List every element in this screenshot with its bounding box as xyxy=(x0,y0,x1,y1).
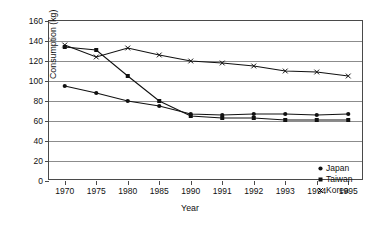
y-axis-tick-label: 20 xyxy=(7,157,43,166)
plot-area: 020406080100120140160 197019751980198519… xyxy=(48,20,363,180)
x-axis-title: Year xyxy=(0,203,380,213)
circle-marker-icon xyxy=(252,112,256,116)
consumption-line-chart: 020406080100120140160 197019751980198519… xyxy=(0,0,380,225)
circle-marker-icon xyxy=(315,164,326,173)
square-marker-icon xyxy=(283,118,287,122)
y-axis-tick-label: 60 xyxy=(7,117,43,126)
circle-marker-icon xyxy=(315,113,319,117)
series-line xyxy=(65,86,349,115)
series-line xyxy=(65,47,349,120)
square-marker-icon xyxy=(126,74,130,78)
x-axis-tick xyxy=(254,181,255,185)
legend-item-japan[interactable]: Japan xyxy=(315,163,377,174)
square-marker-icon xyxy=(252,116,256,120)
series-korea xyxy=(62,43,350,79)
circle-marker-icon xyxy=(63,84,67,88)
x-axis-tick xyxy=(96,181,97,185)
square-marker-icon xyxy=(315,118,319,122)
series-layer xyxy=(49,21,364,181)
y-axis-tick-label: 80 xyxy=(7,97,43,106)
circle-marker-icon xyxy=(318,166,322,170)
square-marker-icon xyxy=(346,118,350,122)
square-marker-icon xyxy=(94,48,98,52)
legend-item-korea[interactable]: Korea xyxy=(315,185,377,196)
square-marker-icon xyxy=(220,116,224,120)
square-marker-icon xyxy=(189,114,193,118)
legend-label: Taiwan xyxy=(326,175,352,184)
x-axis-tick xyxy=(191,181,192,185)
cross-marker-icon xyxy=(318,188,323,193)
cross-marker-icon xyxy=(315,186,326,195)
x-axis-tick xyxy=(159,181,160,185)
y-axis-tick-label: 100 xyxy=(7,77,43,86)
circle-marker-icon xyxy=(283,112,287,116)
legend-label: Japan xyxy=(326,164,349,173)
x-axis-tick xyxy=(65,181,66,185)
legend-item-taiwan[interactable]: Taiwan xyxy=(315,174,377,185)
legend-label: Korea xyxy=(326,186,349,195)
x-axis-tick xyxy=(128,181,129,185)
circle-marker-icon xyxy=(157,104,161,108)
square-marker-icon xyxy=(319,178,323,182)
square-marker-icon xyxy=(315,175,326,184)
circle-marker-icon xyxy=(346,112,350,116)
series-taiwan xyxy=(63,45,351,122)
y-axis-tick-label: 0 xyxy=(7,177,43,186)
y-axis-tick-label: 40 xyxy=(7,137,43,146)
y-axis-tick-label: 140 xyxy=(7,37,43,46)
x-axis-tick xyxy=(285,181,286,185)
y-axis-tick xyxy=(45,181,49,182)
series-line xyxy=(65,45,349,76)
square-marker-icon xyxy=(157,99,161,103)
chart-legend: JapanTaiwanKorea xyxy=(312,161,380,198)
x-axis-tick xyxy=(222,181,223,185)
y-axis-tick-label: 120 xyxy=(7,57,43,66)
circle-marker-icon xyxy=(126,99,130,103)
y-axis-title: Consumption (kg) xyxy=(48,10,58,79)
series-japan xyxy=(63,84,351,117)
y-axis-tick-label: 160 xyxy=(7,17,43,26)
circle-marker-icon xyxy=(94,91,98,95)
